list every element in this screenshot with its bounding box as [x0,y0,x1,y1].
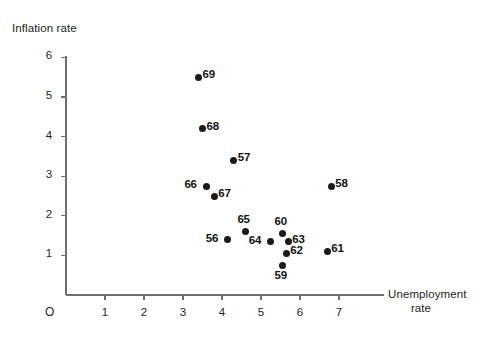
x-tick-label: 4 [212,306,232,318]
y-tick-label: 4 [39,129,59,141]
data-point-label: 69 [203,68,215,80]
data-point [279,230,286,237]
origin-label: O [45,305,54,319]
data-point-label: 64 [249,234,261,246]
x-tick-label: 7 [329,306,349,318]
data-point-label: 61 [331,242,343,254]
data-point [211,193,218,200]
data-point [328,183,335,190]
scatter-plot: Inflation rate Unemploymentrate O 123456… [0,0,483,337]
data-point [195,74,202,81]
y-tick-label: 1 [39,247,59,259]
y-axis-label: Inflation rate [12,22,77,36]
x-tick-label: 6 [290,306,310,318]
x-tick-label: 3 [173,306,193,318]
data-point [283,250,290,257]
data-point [230,157,237,164]
data-point-label: 57 [238,151,250,163]
data-point-label: 63 [292,233,304,245]
x-axis-label-line2: rate [388,302,454,316]
y-tick-label: 6 [39,49,59,61]
data-point [279,262,286,269]
data-point-label: 56 [206,232,218,244]
x-tick-label: 1 [95,306,115,318]
data-point-label: 65 [237,213,249,225]
x-tick-label: 5 [251,306,271,318]
y-tick-label: 5 [39,89,59,101]
data-point-label: 58 [335,177,347,189]
data-point [203,183,210,190]
data-point-label: 60 [274,215,286,227]
x-axis-label: Unemploymentrate [388,288,467,315]
x-axis-label-line1: Unemployment [388,288,467,300]
data-point-label: 67 [218,187,230,199]
data-point-label: 59 [274,269,286,281]
data-point-label: 62 [290,244,302,256]
data-point-label: 66 [184,178,196,190]
data-point [324,248,331,255]
y-tick-label: 2 [39,208,59,220]
y-tick-label: 3 [39,168,59,180]
x-tick-label: 2 [134,306,154,318]
data-point-label: 68 [207,120,219,132]
chart-axes [0,0,483,337]
